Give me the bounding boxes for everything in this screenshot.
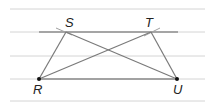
label-t: T xyxy=(145,15,154,30)
geometry-diagram: S T R U xyxy=(0,0,218,108)
label-s: S xyxy=(65,15,74,30)
label-r: R xyxy=(33,82,42,97)
point-u xyxy=(175,77,179,81)
label-u: U xyxy=(173,82,183,97)
point-r xyxy=(37,77,41,81)
